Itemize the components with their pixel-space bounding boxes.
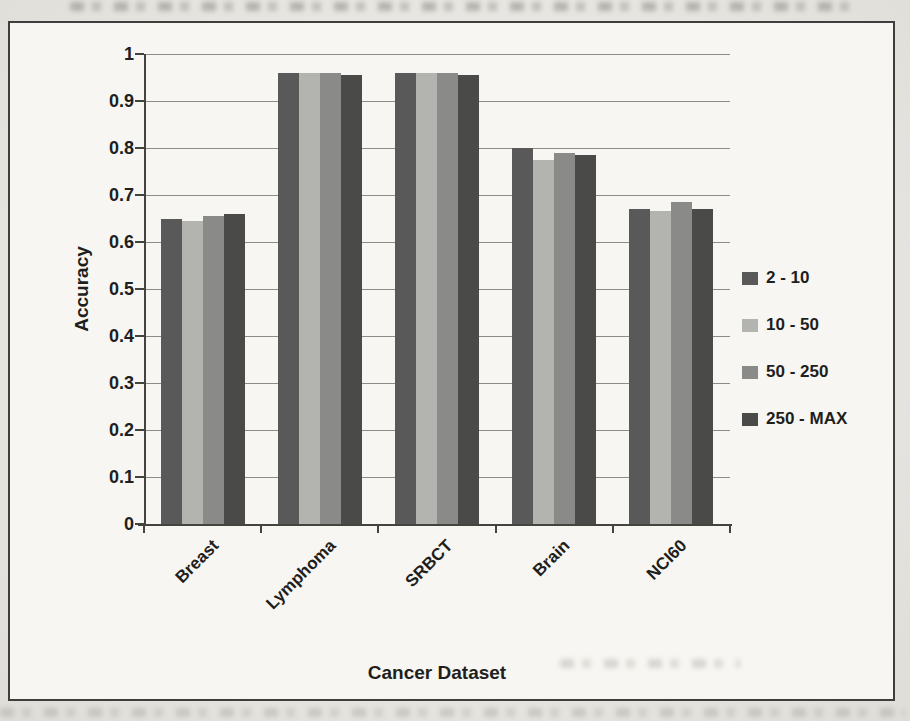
bar-nci60-2-10 — [629, 209, 650, 524]
bar-nci60-250-MAX — [692, 209, 713, 524]
y-tick-mark — [135, 53, 144, 55]
legend: 2 - 1010 - 5050 - 250250 - MAX — [742, 268, 847, 456]
bar-breast-10-50 — [182, 221, 203, 524]
legend-swatch-icon — [742, 413, 758, 426]
legend-label: 2 - 10 — [766, 268, 809, 288]
y-tick-mark — [135, 147, 144, 149]
legend-swatch-icon — [742, 319, 758, 332]
bar-srbct-250-MAX — [458, 75, 479, 524]
x-axis-title: Cancer Dataset — [368, 662, 506, 684]
y-tick-mark — [135, 476, 144, 478]
y-axis-title: Accuracy — [71, 246, 93, 332]
legend-item-250-MAX: 250 - MAX — [742, 409, 847, 429]
y-tick-label: 1 — [98, 44, 134, 65]
gridline — [144, 54, 730, 56]
bar-lymphoma-250-MAX — [341, 75, 362, 524]
legend-swatch-icon — [742, 272, 758, 285]
y-tick-mark — [135, 382, 144, 384]
legend-item-10-50: 10 - 50 — [742, 315, 847, 335]
legend-swatch-icon — [742, 366, 758, 379]
bar-brain-250-MAX — [575, 155, 596, 524]
bar-srbct-10-50 — [416, 73, 437, 524]
y-tick-label: 0.2 — [98, 420, 134, 441]
bar-breast-250-MAX — [224, 214, 245, 524]
y-tick-mark — [135, 241, 144, 243]
bar-lymphoma-50-250 — [320, 73, 341, 524]
legend-label: 10 - 50 — [766, 315, 819, 335]
legend-item-50-250: 50 - 250 — [742, 362, 847, 382]
y-tick-label: 0.7 — [98, 185, 134, 206]
legend-label: 50 - 250 — [766, 362, 828, 382]
y-tick-label: 0 — [98, 514, 134, 535]
x-tick-mark — [377, 524, 379, 533]
y-tick-label: 0.3 — [98, 373, 134, 394]
y-tick-mark — [135, 100, 144, 102]
bar-nci60-50-250 — [671, 202, 692, 524]
x-tick-mark — [612, 524, 614, 533]
bar-brain-2-10 — [512, 148, 533, 524]
y-tick-mark — [135, 288, 144, 290]
y-tick-mark — [135, 429, 144, 431]
bar-breast-50-250 — [203, 216, 224, 524]
legend-label: 250 - MAX — [766, 409, 847, 429]
y-tick-label: 0.1 — [98, 467, 134, 488]
bar-nci60-10-50 — [650, 211, 671, 524]
x-axis-line — [138, 524, 732, 526]
y-tick-mark — [135, 335, 144, 337]
y-tick-label: 0.9 — [98, 91, 134, 112]
scan-artifact-bottom-text — [0, 708, 905, 717]
y-axis-line — [144, 54, 146, 526]
x-tick-mark — [143, 524, 145, 533]
y-tick-mark — [135, 194, 144, 196]
bar-lymphoma-2-10 — [278, 73, 299, 524]
x-tick-mark — [260, 524, 262, 533]
legend-item-2-10: 2 - 10 — [742, 268, 847, 288]
bar-srbct-50-250 — [437, 73, 458, 524]
bar-breast-2-10 — [161, 219, 182, 525]
bar-brain-50-250 — [554, 153, 575, 524]
y-tick-label: 0.5 — [98, 279, 134, 300]
bar-srbct-2-10 — [395, 73, 416, 524]
bar-lymphoma-10-50 — [299, 73, 320, 524]
bar-brain-10-50 — [533, 160, 554, 524]
scan-artifact-ghost-text — [560, 659, 740, 668]
x-tick-mark — [495, 524, 497, 533]
x-tick-mark — [729, 524, 731, 533]
y-tick-label: 0.8 — [98, 138, 134, 159]
y-tick-label: 0.6 — [98, 232, 134, 253]
scan-artifact-top-text — [70, 2, 860, 11]
y-tick-label: 0.4 — [98, 326, 134, 347]
